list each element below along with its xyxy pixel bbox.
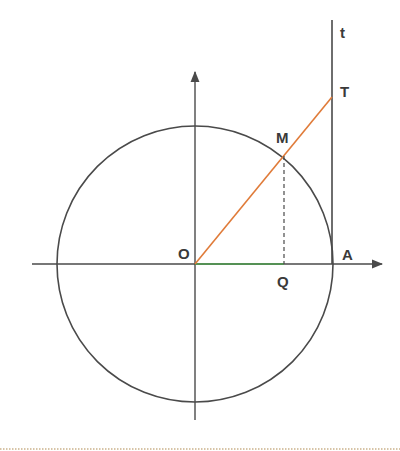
label-O: O: [178, 245, 190, 262]
radius-line-OT: [195, 97, 332, 264]
label-A: A: [342, 246, 353, 263]
label-t: t: [340, 24, 345, 41]
label-M: M: [276, 129, 289, 146]
label-T: T: [340, 83, 349, 100]
label-Q: Q: [277, 273, 289, 290]
trig-circle-diagram: t T M O A Q: [0, 0, 400, 451]
